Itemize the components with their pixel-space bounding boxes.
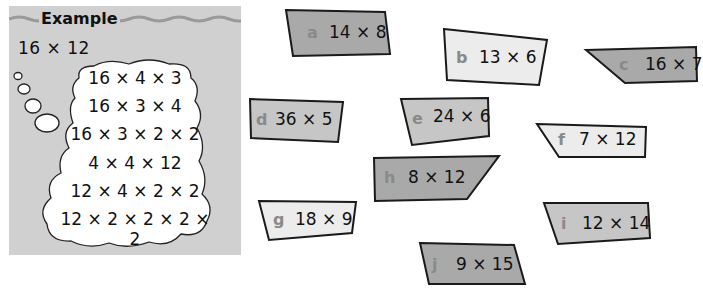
card-expression: 13 × 6: [479, 47, 537, 67]
card-expression: 14 × 8: [329, 22, 387, 42]
card-expression: 24 × 6: [433, 106, 491, 126]
card-expression: 18 × 9: [295, 209, 353, 229]
thought-line: 12 × 4 × 2 × 2: [59, 181, 211, 201]
card-f: f 7 × 12: [536, 122, 648, 160]
card-expression: 9 × 15: [456, 254, 514, 274]
card-label: f: [558, 130, 565, 149]
card-label: a: [307, 23, 318, 42]
card-expression: 16 × 7: [645, 54, 703, 74]
thought-line: 12 × 2 × 2 × 2 × 2: [59, 209, 211, 249]
card-label: e: [412, 109, 423, 128]
card-label: c: [619, 55, 628, 74]
card-label: j: [432, 255, 437, 274]
card-i: i 12 × 14: [543, 202, 651, 246]
card-label: h: [384, 168, 395, 187]
thought-line: 16 × 3 × 4: [59, 96, 211, 116]
card-label: d: [256, 110, 267, 129]
card-h: h 8 × 12: [373, 155, 501, 203]
thought-line: 16 × 3 × 2 × 2: [59, 124, 211, 144]
card-c: c 16 × 7: [583, 45, 699, 87]
card-label: b: [456, 48, 467, 67]
card-d: d 36 × 5: [249, 98, 345, 144]
card-label: g: [273, 210, 284, 229]
card-expression: 7 × 12: [579, 129, 637, 149]
card-expression: 12 × 14: [582, 213, 650, 233]
thought-line: 4 × 4 × 12: [59, 153, 211, 173]
card-j: j 9 × 15: [419, 242, 527, 286]
card-g: g 18 × 9: [258, 200, 358, 242]
card-expression: 36 × 5: [275, 109, 333, 129]
card-label: i: [561, 214, 566, 233]
card-e: e 24 × 6: [400, 97, 490, 147]
card-a: a 14 × 8: [285, 9, 391, 59]
example-panel: Example 16 × 12 16 × 4 × 3 16 × 3 × 4 16…: [9, 6, 241, 255]
thought-line: 16 × 4 × 3: [59, 68, 211, 88]
card-expression: 8 × 12: [408, 167, 466, 187]
card-b: b 13 × 6: [443, 28, 549, 88]
